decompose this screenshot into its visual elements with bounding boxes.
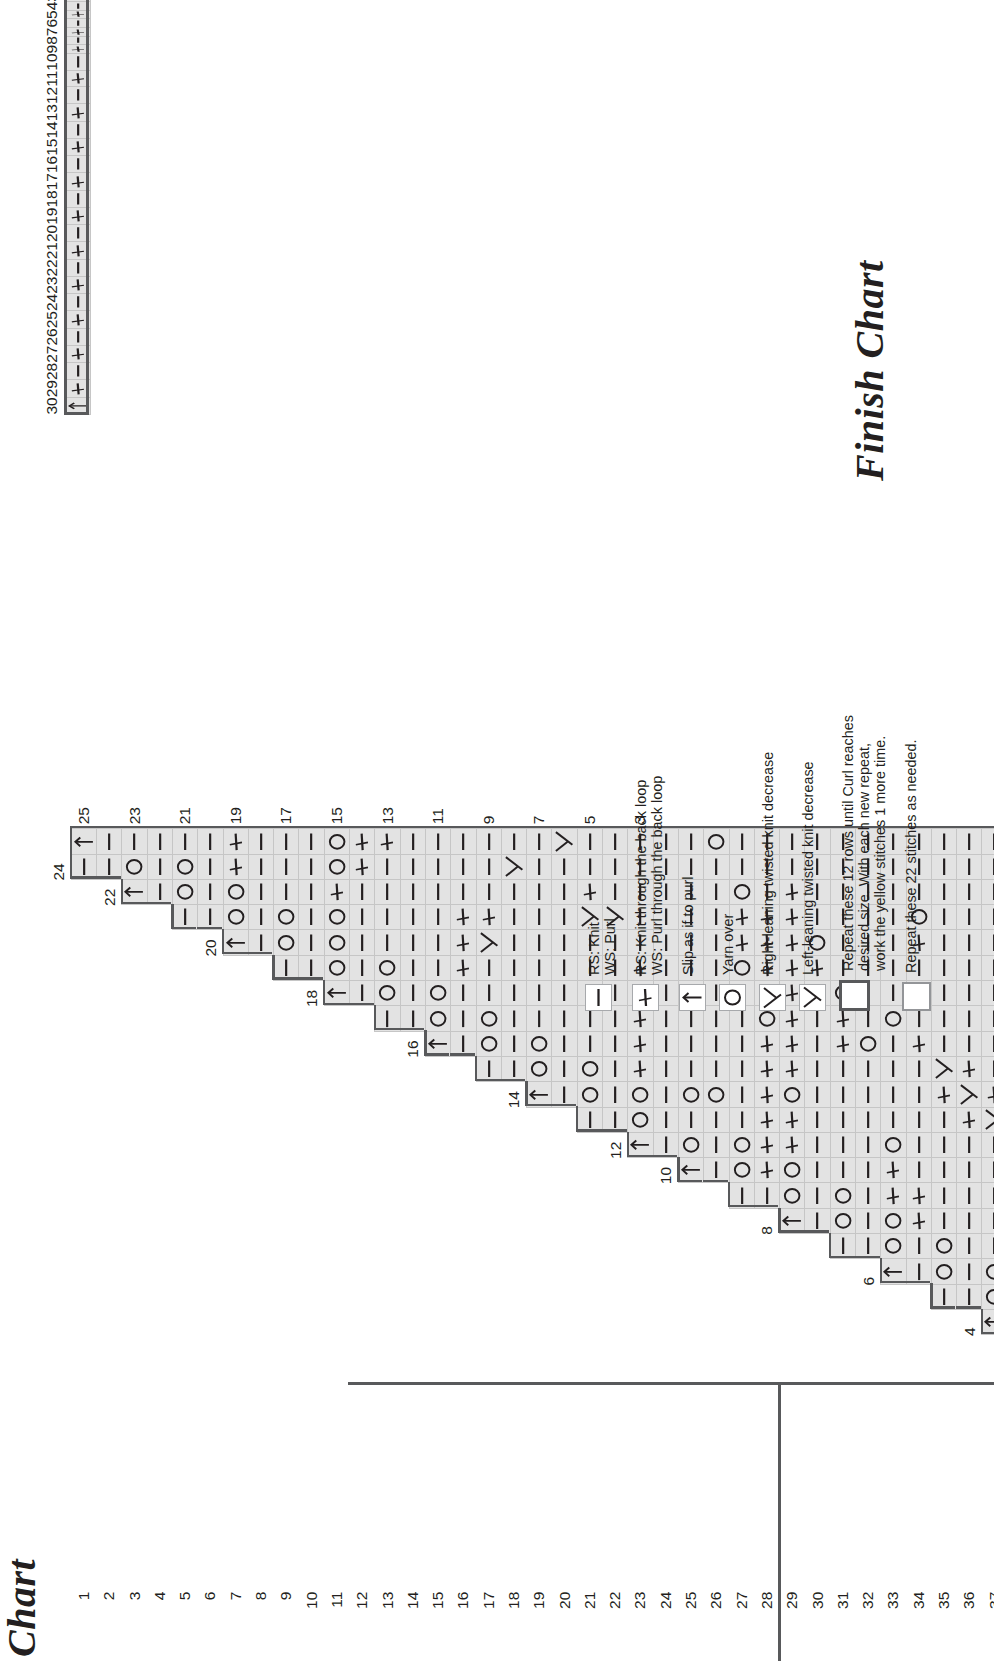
stitch-cell[interactable] [501, 955, 526, 980]
stitch-cell[interactable] [982, 955, 994, 980]
stitch-cell[interactable] [223, 905, 248, 930]
stitch-cell[interactable] [65, 45, 90, 54]
stitch-cell[interactable] [248, 854, 273, 879]
stitch-cell[interactable] [982, 1158, 994, 1183]
stitch-cell[interactable] [881, 1132, 906, 1157]
stitch-cell[interactable] [527, 1056, 552, 1081]
stitch-cell[interactable] [147, 879, 172, 904]
stitch-cell[interactable] [805, 1158, 830, 1183]
stitch-cell[interactable] [628, 1031, 653, 1056]
stitch-cell[interactable] [678, 1056, 703, 1081]
stitch-cell[interactable] [957, 854, 982, 879]
stitch-cell[interactable] [982, 1056, 994, 1081]
stitch-cell[interactable] [375, 955, 400, 980]
stitch-cell[interactable] [754, 1132, 779, 1157]
stitch-cell[interactable] [982, 930, 994, 955]
stitch-cell[interactable] [223, 829, 248, 854]
stitch-cell[interactable] [982, 1107, 994, 1132]
stitch-cell[interactable] [881, 1259, 906, 1284]
stitch-cell[interactable] [527, 854, 552, 879]
stitch-cell[interactable] [856, 1031, 881, 1056]
stitch-cell[interactable] [122, 854, 147, 879]
stitch-cell[interactable] [653, 1056, 678, 1081]
stitch-cell[interactable] [97, 829, 122, 854]
stitch-cell[interactable] [931, 1056, 956, 1081]
stitch-cell[interactable] [881, 1082, 906, 1107]
stitch-cell[interactable] [628, 1107, 653, 1132]
stitch-cell[interactable] [71, 829, 96, 854]
stitch-cell[interactable] [198, 854, 223, 879]
stitch-cell[interactable] [299, 879, 324, 904]
stitch-cell[interactable] [805, 1132, 830, 1157]
stitch-cell[interactable] [881, 1107, 906, 1132]
stitch-cell[interactable] [501, 981, 526, 1006]
stitch-cell[interactable] [805, 1107, 830, 1132]
stitch-cell[interactable] [476, 879, 501, 904]
stitch-cell[interactable] [476, 930, 501, 955]
stitch-cell[interactable] [65, 328, 90, 345]
stitch-cell[interactable] [147, 854, 172, 879]
stitch-cell[interactable] [704, 1107, 729, 1132]
stitch-cell[interactable] [172, 854, 197, 879]
stitch-cell[interactable] [653, 1031, 678, 1056]
stitch-cell[interactable] [350, 930, 375, 955]
stitch-cell[interactable] [653, 1132, 678, 1157]
stitch-cell[interactable] [527, 879, 552, 904]
stitch-cell[interactable] [982, 981, 994, 1006]
stitch-cell[interactable] [982, 829, 994, 854]
stitch-cell[interactable] [476, 905, 501, 930]
stitch-cell[interactable] [957, 1056, 982, 1081]
stitch-cell[interactable] [223, 930, 248, 955]
stitch-cell[interactable] [805, 1056, 830, 1081]
stitch-cell[interactable] [982, 854, 994, 879]
stitch-cell[interactable] [400, 981, 425, 1006]
stitch-cell[interactable] [577, 1031, 602, 1056]
stitch-cell[interactable] [299, 829, 324, 854]
stitch-cell[interactable] [957, 1284, 982, 1309]
stitch-cell[interactable] [957, 1107, 982, 1132]
stitch-cell[interactable] [931, 1259, 956, 1284]
stitch-cell[interactable] [704, 1031, 729, 1056]
stitch-cell[interactable] [931, 1284, 956, 1309]
stitch-cell[interactable] [931, 1107, 956, 1132]
stitch-cell[interactable] [400, 879, 425, 904]
stitch-cell[interactable] [982, 1082, 994, 1107]
stitch-cell[interactable] [476, 1031, 501, 1056]
stitch-cell[interactable] [451, 981, 476, 1006]
stitch-cell[interactable] [982, 1259, 994, 1284]
stitch-cell[interactable] [299, 955, 324, 980]
stitch-cell[interactable] [906, 1056, 931, 1081]
stitch-cell[interactable] [931, 1031, 956, 1056]
stitch-cell[interactable] [957, 1006, 982, 1031]
stitch-cell[interactable] [476, 1006, 501, 1031]
stitch-cell[interactable] [957, 829, 982, 854]
stitch-cell[interactable] [957, 1031, 982, 1056]
stitch-cell[interactable] [552, 905, 577, 930]
stitch-cell[interactable] [881, 1234, 906, 1259]
stitch-cell[interactable] [274, 930, 299, 955]
stitch-cell[interactable] [350, 854, 375, 879]
stitch-cell[interactable] [577, 1107, 602, 1132]
stitch-cell[interactable] [603, 1107, 628, 1132]
stitch-cell[interactable] [603, 1031, 628, 1056]
stitch-cell[interactable] [65, 121, 90, 138]
stitch-cell[interactable] [552, 930, 577, 955]
stitch-cell[interactable] [881, 1183, 906, 1208]
stitch-cell[interactable] [856, 1107, 881, 1132]
stitch-cell[interactable] [805, 1183, 830, 1208]
stitch-cell[interactable] [805, 1208, 830, 1233]
stitch-cell[interactable] [729, 1107, 754, 1132]
stitch-cell[interactable] [830, 1056, 855, 1081]
stitch-cell[interactable] [906, 1031, 931, 1056]
stitch-cell[interactable] [552, 854, 577, 879]
stitch-cell[interactable] [65, 242, 90, 259]
stitch-cell[interactable] [906, 1082, 931, 1107]
stitch-cell[interactable] [65, 363, 90, 380]
stitch-cell[interactable] [931, 1158, 956, 1183]
stitch-cell[interactable] [704, 1158, 729, 1183]
stitch-cell[interactable] [425, 829, 450, 854]
stitch-cell[interactable] [957, 1082, 982, 1107]
stitch-cell[interactable] [754, 1107, 779, 1132]
stitch-cell[interactable] [982, 879, 994, 904]
stitch-cell[interactable] [198, 905, 223, 930]
